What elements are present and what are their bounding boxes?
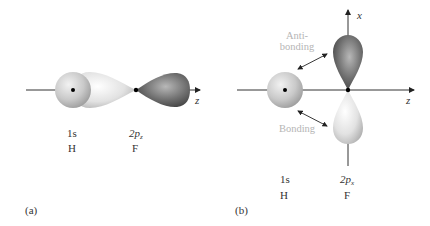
h-orbital-label-b: 1s xyxy=(280,174,290,185)
f-atom-label-a: F xyxy=(132,143,138,154)
antibonding-arrow xyxy=(298,54,327,69)
f-orbital-label-a: 2pz xyxy=(129,128,143,141)
f-orbital-sub: z xyxy=(140,133,143,141)
f-orbital-main-b: 2p xyxy=(340,173,351,185)
h-atom-label-a: H xyxy=(68,143,76,154)
x-axis-label-b: x xyxy=(357,10,362,21)
caption-a: (a) xyxy=(25,205,37,216)
f-nucleus-a xyxy=(134,88,138,92)
orbital-diagram xyxy=(0,0,430,226)
h-orbital-label-a: 1s xyxy=(67,128,77,139)
caption-b: (b) xyxy=(235,205,248,216)
bonding-label: Bonding xyxy=(272,124,322,135)
panel-a xyxy=(26,72,200,108)
antibonding-label: Anti-bonding xyxy=(272,31,322,52)
antibonding-lobe-b xyxy=(333,35,363,90)
panel-b xyxy=(237,10,414,166)
dark-lobe-a xyxy=(136,73,190,107)
z-axis-label-a: z xyxy=(195,95,199,106)
f-atom-label-b: F xyxy=(344,190,350,201)
antibonding-line2: bonding xyxy=(280,41,314,52)
bonding-lobe-b xyxy=(333,90,363,144)
f-orbital-sub-b: x xyxy=(351,179,354,187)
antibonding-line1: Anti- xyxy=(286,30,308,41)
f-orbital-main: 2p xyxy=(129,127,140,139)
h-nucleus-b xyxy=(283,88,287,92)
f-orbital-label-b: 2px xyxy=(340,174,354,187)
z-axis-label-b: z xyxy=(406,95,410,106)
h-atom-label-b: H xyxy=(280,190,288,201)
h-nucleus-a xyxy=(71,88,75,92)
f-nucleus-b xyxy=(346,88,350,92)
h-orbital-text: 1s xyxy=(67,127,77,139)
